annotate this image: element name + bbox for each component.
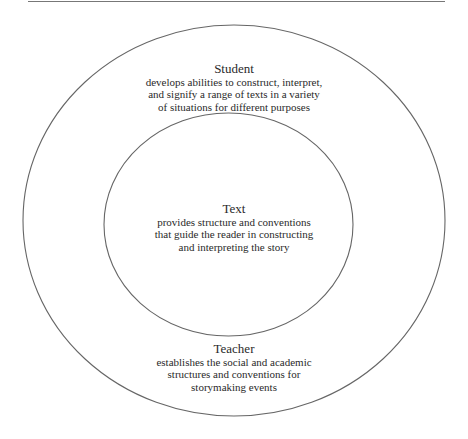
- text-line-3: and interpreting the story: [155, 241, 314, 253]
- teacher-line-3: storymaking events: [156, 381, 311, 393]
- student-line-2: and signify a range of texts in a variet…: [146, 88, 323, 100]
- student-label-block: Student develops abilities to construct,…: [146, 62, 323, 113]
- student-title: Student: [146, 62, 323, 76]
- teacher-line-2: structures and conventions for: [156, 368, 311, 380]
- text-line-2: that guide the reader in constructing: [155, 228, 314, 240]
- teacher-line-1: establishes the social and academic: [156, 356, 311, 368]
- text-line-1: provides structure and conventions: [155, 216, 314, 228]
- text-label-block: Text provides structure and conventions …: [155, 202, 314, 253]
- text-title: Text: [155, 202, 314, 216]
- teacher-label-block: Teacher establishes the social and acade…: [156, 342, 311, 393]
- student-line-3: of situations for different purposes: [146, 101, 323, 113]
- teacher-title: Teacher: [156, 342, 311, 356]
- student-line-1: develops abilities to construct, interpr…: [146, 76, 323, 88]
